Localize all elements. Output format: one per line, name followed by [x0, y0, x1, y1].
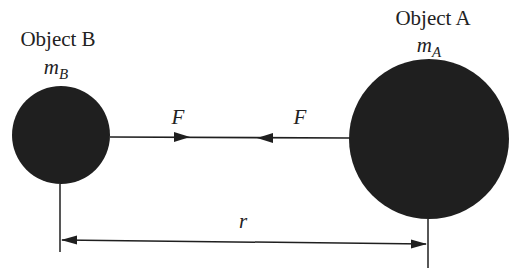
object-b-mass-label: mB — [44, 55, 68, 82]
object-b-title: Object B — [20, 27, 95, 51]
distance-arrow-left-icon — [61, 236, 77, 245]
force-label-right: F — [293, 105, 307, 129]
distance-label: r — [239, 209, 248, 233]
distance-arrow-right-icon — [411, 240, 427, 249]
distance-line — [62, 240, 426, 244]
force-arrow-right-icon — [174, 132, 190, 142]
force-line — [110, 137, 350, 138]
object-a-sphere — [349, 59, 509, 219]
object-b-sphere — [12, 86, 110, 184]
force-arrow-left-icon — [257, 133, 273, 143]
object-a-mass-label: mA — [417, 33, 442, 60]
force-label-left: F — [171, 105, 185, 129]
gravity-diagram: Object B mB Object A mA F F r — [0, 0, 519, 268]
object-a-title: Object A — [395, 6, 471, 30]
